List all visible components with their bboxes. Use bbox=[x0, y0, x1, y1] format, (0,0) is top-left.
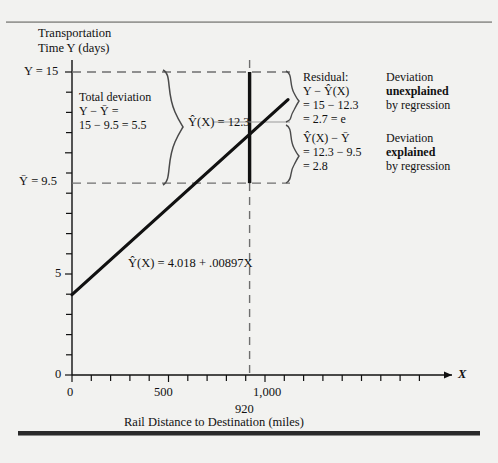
x-tick-label-0: 0 bbox=[67, 385, 73, 400]
residual-line3: = 15 − 12.3 bbox=[303, 98, 359, 112]
residual-line2: Y − Ŷ(X) bbox=[303, 84, 349, 98]
residual-line1: Residual: bbox=[303, 70, 348, 84]
x-axis-arrowhead bbox=[444, 372, 452, 379]
total-deviation-line3: 15 − 9.5 = 5.5 bbox=[79, 118, 147, 132]
explained-line2: explained bbox=[386, 145, 435, 159]
unexplained-line1: Deviation bbox=[386, 70, 433, 84]
annotation-fitted-value: Ŷ(X) = 12.3 bbox=[188, 115, 250, 130]
explained-line1: Deviation bbox=[386, 131, 433, 145]
annotation-unexplained: Deviation unexplained by regression bbox=[386, 70, 450, 112]
x-tick-label-1000: 1,000 bbox=[253, 385, 281, 400]
unexplained-line3: by regression bbox=[386, 98, 450, 112]
annotation-explained-value: Ŷ(X) − Ȳ = 12.3 − 9.5 = 2.8 bbox=[303, 131, 362, 173]
y-tick-label-15: Y = 15 bbox=[24, 64, 58, 79]
y-axis-title-line2: Time Y (days) bbox=[38, 41, 110, 55]
regression-deviation-figure: Transportation Time Y (days) Y = 15 Ȳ =… bbox=[0, 0, 498, 463]
explained-dev-line1: Ŷ(X) − Ȳ bbox=[303, 131, 350, 145]
annotation-explained: Deviation explained by regression bbox=[386, 131, 450, 173]
annotation-regression-equation: Ŷ(X) = 4.018 + .00897X bbox=[128, 256, 253, 271]
explained-line3: by regression bbox=[386, 159, 450, 173]
residual-line4: = 2.7 = e bbox=[303, 112, 346, 126]
annotation-total-deviation: Total deviation Y − Ȳ = 15 − 9.5 = 5.5 bbox=[79, 90, 151, 132]
y-tick-label-0: 0 bbox=[55, 367, 61, 382]
explained-dev-line2: = 12.3 − 9.5 bbox=[303, 145, 362, 159]
unexplained-line2: unexplained bbox=[386, 84, 449, 98]
explained-dev-line3: = 2.8 bbox=[303, 159, 328, 173]
x-tick-label-500: 500 bbox=[154, 385, 173, 400]
x-axis-ticks bbox=[72, 375, 419, 382]
annotation-residual: Residual: Y − Ŷ(X) = 15 − 12.3 = 2.7 = e bbox=[303, 70, 359, 127]
y-tick-label-5: 5 bbox=[55, 266, 61, 281]
y-axis-title: Transportation Time Y (days) bbox=[38, 26, 111, 56]
explained-brace bbox=[286, 125, 299, 183]
y-tick-label-mean: Ȳ = 9.5 bbox=[19, 174, 57, 189]
total-deviation-brace bbox=[163, 70, 183, 185]
y-axis-ticks bbox=[65, 72, 72, 375]
total-deviation-line2: Y − Ȳ = bbox=[79, 104, 118, 118]
x-axis-title: Rail Distance to Destination (miles) bbox=[124, 415, 304, 430]
residual-brace bbox=[286, 71, 299, 122]
x-axis-symbol: X bbox=[458, 367, 466, 382]
y-axis-title-line1: Transportation bbox=[38, 26, 111, 40]
total-deviation-line1: Total deviation bbox=[79, 90, 151, 104]
